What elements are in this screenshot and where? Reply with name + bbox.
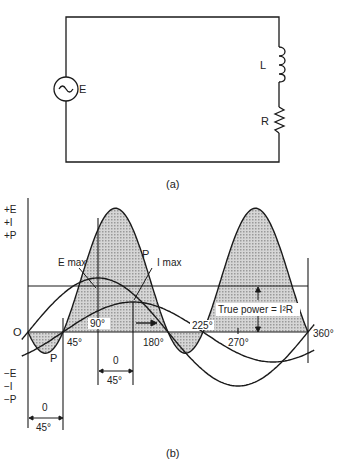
power-label-top: P bbox=[142, 248, 149, 260]
dim-2-top: 0 bbox=[42, 402, 48, 413]
source-label: E bbox=[79, 83, 86, 95]
origin-label: O bbox=[13, 326, 22, 338]
power-label-bottom: P bbox=[50, 352, 57, 364]
sine-wave-icon bbox=[59, 86, 73, 92]
dim-1-bottom: 45° bbox=[107, 375, 122, 386]
angle-45: 45° bbox=[67, 337, 82, 348]
circuit-diagram bbox=[54, 17, 285, 162]
emax-label: E max bbox=[58, 257, 86, 268]
dim-1-top: 0 bbox=[113, 355, 119, 366]
y-label-neg-e: −E bbox=[4, 368, 17, 379]
circuit-wire bbox=[66, 17, 279, 162]
y-label-neg-p: −P bbox=[4, 394, 17, 405]
angle-360: 360° bbox=[313, 328, 334, 339]
angle-270: 270° bbox=[228, 337, 249, 348]
y-label-pos-e: +E bbox=[4, 204, 17, 215]
y-label-pos-p: +P bbox=[4, 230, 17, 241]
resistor-label: R bbox=[261, 115, 269, 127]
angle-180: 180° bbox=[143, 337, 164, 348]
y-label-neg-i: −I bbox=[4, 381, 13, 392]
y-label-pos-i: +I bbox=[4, 217, 13, 228]
inductor-label: L bbox=[260, 59, 266, 71]
caption-b: (b) bbox=[166, 447, 179, 459]
caption-a: (a) bbox=[166, 178, 179, 190]
angle-90: 90° bbox=[90, 318, 105, 329]
imax-label: I max bbox=[157, 257, 181, 268]
dim-2-bottom: 45° bbox=[36, 422, 51, 433]
true-power-label: True power = I²R bbox=[218, 304, 293, 315]
angle-225: 225° bbox=[192, 320, 213, 331]
resistor-icon bbox=[275, 107, 284, 133]
inductor-icon bbox=[279, 47, 285, 82]
figure: E L R (a) bbox=[0, 0, 352, 466]
